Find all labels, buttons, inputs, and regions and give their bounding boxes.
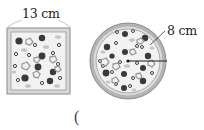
square-pizza [7, 28, 70, 94]
round-pizza [90, 23, 167, 99]
square-dimension-line [8, 20, 70, 27]
answer-paren: ( [74, 108, 79, 126]
pizza-diagram [0, 0, 204, 130]
